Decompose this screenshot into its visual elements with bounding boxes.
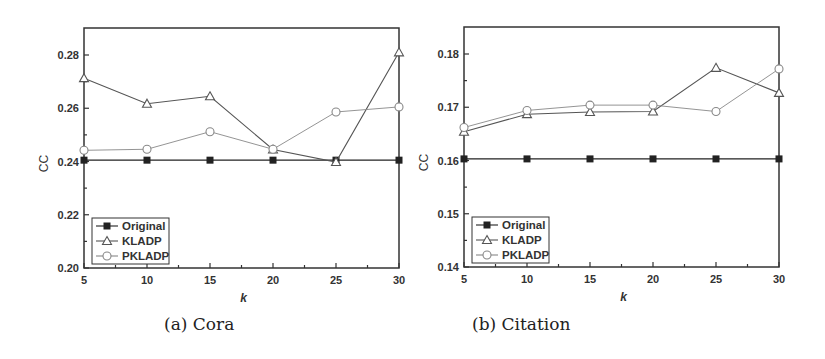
data-point-marker — [587, 155, 594, 162]
legend-marker-icon — [483, 251, 491, 259]
data-point-marker — [650, 155, 657, 162]
x-tick-label: 10 — [141, 274, 153, 286]
legend-label-kladp: KLADP — [502, 234, 542, 246]
data-point-marker — [206, 128, 214, 136]
legend-label-kladp: KLADP — [122, 235, 162, 247]
data-point-marker — [712, 108, 720, 116]
data-point-marker — [80, 146, 88, 154]
x-axis-label: k — [240, 291, 248, 305]
series-line — [464, 68, 779, 132]
data-point-marker — [713, 155, 720, 162]
data-point-marker — [461, 155, 468, 162]
y-tick-label: 0.17 — [438, 101, 459, 113]
x-tick-label: 25 — [710, 273, 722, 285]
data-point-marker — [712, 63, 721, 71]
series-original — [81, 157, 403, 164]
caption-citation: (b) Citation — [472, 314, 570, 334]
data-point-marker — [586, 101, 594, 109]
legend: OriginalKLADPPKLADP — [472, 217, 550, 263]
data-point-marker — [523, 106, 531, 114]
line-chart-citation: 0.140.150.160.170.1851015202530kCCOrigin… — [380, 0, 792, 310]
x-tick-label: 15 — [584, 273, 596, 285]
legend-label-pkladp: PKLADP — [122, 250, 170, 262]
x-tick-label: 10 — [521, 273, 533, 285]
series-kladp — [460, 63, 784, 135]
x-tick-label: 5 — [461, 273, 467, 285]
x-tick-label: 25 — [330, 274, 342, 286]
line-chart-cora: 0.200.220.240.260.2851015202530kCCOrigin… — [0, 0, 412, 310]
y-tick-label: 0.16 — [438, 155, 459, 167]
caption-cora: (a) Cora — [164, 314, 234, 334]
y-axis-label: CC — [37, 155, 51, 173]
y-tick-label: 0.15 — [438, 208, 459, 220]
legend-label-pkladp: PKLADP — [502, 249, 550, 261]
x-axis-label: k — [620, 290, 628, 304]
series-original — [461, 155, 783, 162]
y-tick-label: 0.20 — [58, 262, 79, 274]
y-axis-label: CC — [417, 154, 431, 172]
series-pkladp — [80, 103, 403, 154]
legend-label-original: Original — [122, 220, 165, 232]
y-tick-label: 0.28 — [58, 49, 79, 61]
legend-label-original: Original — [502, 219, 545, 231]
y-tick-label: 0.14 — [438, 261, 460, 273]
x-tick-label: 30 — [773, 273, 785, 285]
data-point-marker — [144, 157, 151, 164]
legend-marker-icon — [103, 252, 111, 260]
series-kladp — [80, 48, 404, 166]
y-tick-label: 0.26 — [58, 102, 79, 114]
data-point-marker — [206, 92, 215, 100]
data-point-marker — [524, 155, 531, 162]
data-point-marker — [143, 145, 151, 153]
legend-marker-icon — [484, 222, 491, 229]
x-tick-label: 20 — [647, 273, 659, 285]
legend-marker-icon — [104, 223, 111, 230]
data-point-marker — [775, 88, 784, 96]
data-point-marker — [460, 123, 468, 131]
data-point-marker — [80, 74, 89, 82]
data-point-marker — [332, 108, 340, 116]
y-tick-label: 0.24 — [58, 156, 80, 168]
series-line — [84, 52, 399, 162]
x-tick-label: 15 — [204, 274, 216, 286]
data-point-marker — [207, 157, 214, 164]
data-point-marker — [81, 157, 88, 164]
chart-panel-cora: 0.200.220.240.260.2851015202530kCCOrigin… — [0, 0, 412, 359]
data-point-marker — [775, 65, 783, 73]
y-tick-label: 0.18 — [438, 48, 459, 60]
data-point-marker — [649, 101, 657, 109]
data-point-marker — [270, 157, 277, 164]
y-tick-label: 0.22 — [58, 209, 79, 221]
data-point-marker — [776, 155, 783, 162]
data-point-marker — [269, 145, 277, 153]
x-tick-label: 20 — [267, 274, 279, 286]
legend: OriginalKLADPPKLADP — [92, 218, 170, 264]
chart-panel-citation: 0.140.150.160.170.1851015202530kCCOrigin… — [380, 0, 792, 359]
series-line — [84, 107, 399, 150]
x-tick-label: 5 — [81, 274, 87, 286]
